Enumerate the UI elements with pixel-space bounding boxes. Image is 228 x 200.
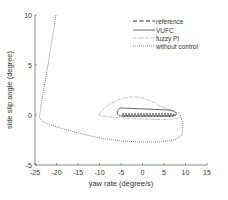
legend-label: VUFC <box>156 27 174 34</box>
x-tick-label: 15 <box>203 169 211 176</box>
series-reference <box>122 114 175 116</box>
legend-label: without control <box>155 43 198 50</box>
x-axis-label: yaw rate (degree/s) <box>89 179 154 188</box>
x-tick-label: 0 <box>141 169 145 176</box>
y-axis-label: side slip angle (degree) <box>5 51 14 129</box>
x-tick-label: 10 <box>182 169 190 176</box>
legend-label: fuzzy PI <box>156 35 179 43</box>
y-tick-label: -5 <box>26 162 32 169</box>
y-tick-label: 5 <box>28 62 32 69</box>
legend-label: reference <box>156 18 184 25</box>
x-tick-label: -5 <box>118 169 124 176</box>
x-tick-label: -20 <box>51 169 61 176</box>
y-tick-label: 0 <box>28 112 32 119</box>
x-tick-label: -15 <box>73 169 83 176</box>
x-tick-label: -25 <box>30 169 40 176</box>
x-tick-label: 5 <box>162 169 166 176</box>
legend: reference VUFC fuzzy PI without control <box>133 18 198 50</box>
x-tick-label: -10 <box>94 169 104 176</box>
y-tick-label: 10 <box>24 12 32 19</box>
chart-canvas: 10 5 0 -5 -25 -20 -15 -10 -5 0 5 10 15 y… <box>0 0 228 200</box>
